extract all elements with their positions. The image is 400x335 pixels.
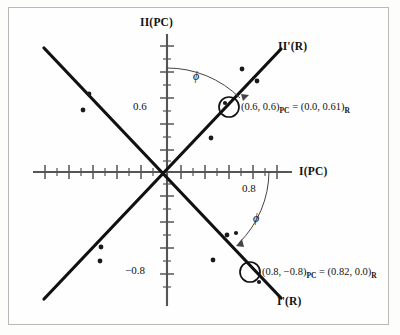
rotated-axes (44, 48, 281, 299)
lower-phi-arrowhead (236, 239, 244, 247)
lower-annotation-r-sub: R (371, 271, 376, 280)
y-tick-label-0-6: 0.6 (133, 101, 147, 112)
lower-annotation-r-point: (0.82, 0.0) (328, 266, 372, 277)
data-point (98, 259, 103, 264)
highlight-circle-upper (219, 97, 239, 117)
data-point (211, 258, 216, 263)
rotated-lower-axis-label: I'(R) (277, 296, 302, 308)
upper-annotation-r-sub: R (344, 106, 349, 115)
upper-annotation-equals: = (292, 101, 298, 112)
data-point (257, 280, 261, 284)
y-tick-label-neg-0-8: −0.8 (125, 265, 145, 276)
plot-svg (0, 0, 400, 335)
data-point (225, 233, 230, 238)
data-point (81, 108, 86, 113)
y-axis-label: II(PC) (140, 17, 173, 29)
data-point (223, 101, 227, 105)
lower-annotation-equals: = (319, 266, 325, 277)
lower-phi-label: ϕ (253, 212, 259, 224)
upper-phi-label: ϕ (193, 70, 199, 82)
upper-annotation-r-point: (0.0, 0.61) (301, 101, 345, 112)
data-point (255, 79, 260, 84)
data-point (240, 67, 245, 72)
data-point (87, 92, 92, 97)
x-axis-label: I(PC) (299, 166, 327, 178)
figure-container: II(PC) I(PC) II'(R) I'(R) 0.6 −0.8 0.8 ϕ… (0, 0, 400, 335)
upper-annotation-pc-sub: PC (280, 106, 290, 115)
x-tick-label-0-8: 0.8 (242, 183, 256, 194)
upper-phi-arc (167, 68, 240, 98)
data-point (99, 245, 104, 250)
upper-phi-arrowhead (241, 94, 249, 101)
data-point (209, 136, 214, 141)
lower-annotation: (0.8, −0.8)PC = (0.82, 0.0)R (262, 267, 377, 280)
rotated-upper-axis-label: II'(R) (278, 41, 307, 53)
lower-annotation-pc-point: (0.8, −0.8) (262, 266, 306, 277)
upper-annotation-pc-point: (0.6, 0.6) (241, 101, 280, 112)
upper-annotation: (0.6, 0.6)PC = (0.0, 0.61)R (241, 102, 350, 115)
data-point (234, 231, 238, 235)
lower-annotation-pc-sub: PC (306, 271, 316, 280)
